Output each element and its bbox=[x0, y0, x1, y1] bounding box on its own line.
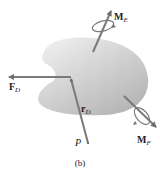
figure-caption: (b) bbox=[75, 158, 86, 168]
svg-text:FD: FD bbox=[9, 81, 20, 94]
rigid-body-diagram: ME FD rD P MF (b) bbox=[0, 0, 160, 176]
svg-text:ME: ME bbox=[114, 11, 128, 24]
force-d-subscript: D bbox=[14, 86, 20, 94]
position-r-subscript: D bbox=[84, 108, 90, 116]
moment-e-subscript: E bbox=[122, 16, 128, 24]
moment-f-subscript: F bbox=[145, 139, 151, 147]
point-p-label: P bbox=[74, 137, 81, 148]
rotation-arrow-icon bbox=[91, 18, 115, 33]
svg-text:MF: MF bbox=[137, 134, 151, 147]
